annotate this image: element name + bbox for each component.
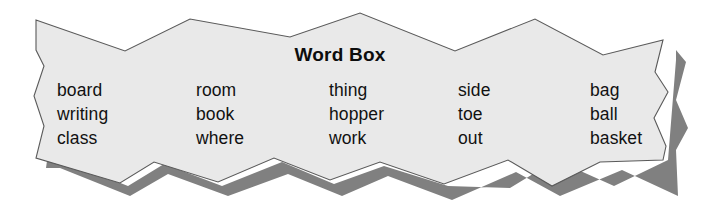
- page-title: Word Box: [0, 44, 680, 66]
- word-item: thing: [329, 78, 384, 102]
- word-item: book: [196, 102, 244, 126]
- word-item: side: [458, 78, 491, 102]
- word-column-3: thing hopper work: [329, 78, 384, 150]
- word-item: room: [196, 78, 244, 102]
- word-item: board: [57, 78, 108, 102]
- word-column-1: board writing class: [57, 78, 108, 150]
- word-box-figure: Word Box board writing class room book w…: [0, 0, 714, 215]
- word-item: basket: [590, 126, 642, 150]
- word-box-content: Word Box board writing class room book w…: [0, 0, 714, 215]
- word-item: bag: [590, 78, 642, 102]
- word-item: writing: [57, 102, 108, 126]
- word-column-4: side toe out: [458, 78, 491, 150]
- word-item: toe: [458, 102, 491, 126]
- word-item: hopper: [329, 102, 384, 126]
- word-item: class: [57, 126, 108, 150]
- word-columns: board writing class room book where thin…: [0, 78, 714, 156]
- word-item: work: [329, 126, 384, 150]
- word-column-2: room book where: [196, 78, 244, 150]
- word-item: ball: [590, 102, 642, 126]
- word-item: where: [196, 126, 244, 150]
- word-column-5: bag ball basket: [590, 78, 642, 150]
- word-item: out: [458, 126, 491, 150]
